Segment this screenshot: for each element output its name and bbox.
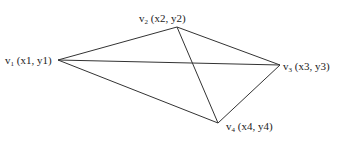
vertex-label-v1: v1 (x1, y1) (5, 54, 52, 70)
edge-v1-v2 (58, 27, 177, 60)
edge-v3-v4 (218, 65, 280, 123)
quadrilateral-diagram: v1 (x1, y1) v2 (x2, y2) v3 (x3, y3) v4 (… (0, 0, 341, 141)
edge-v1-v3 (58, 60, 280, 65)
edge-v2-v4 (177, 27, 218, 123)
vertex-label-v3: v3 (x3, y3) (283, 60, 330, 76)
vertex-label-v2: v2 (x2, y2) (139, 12, 186, 28)
vertex-label-v4: v4 (x4, y4) (226, 120, 273, 136)
edge-v1-v4 (58, 60, 218, 123)
edge-v2-v3 (177, 27, 280, 65)
